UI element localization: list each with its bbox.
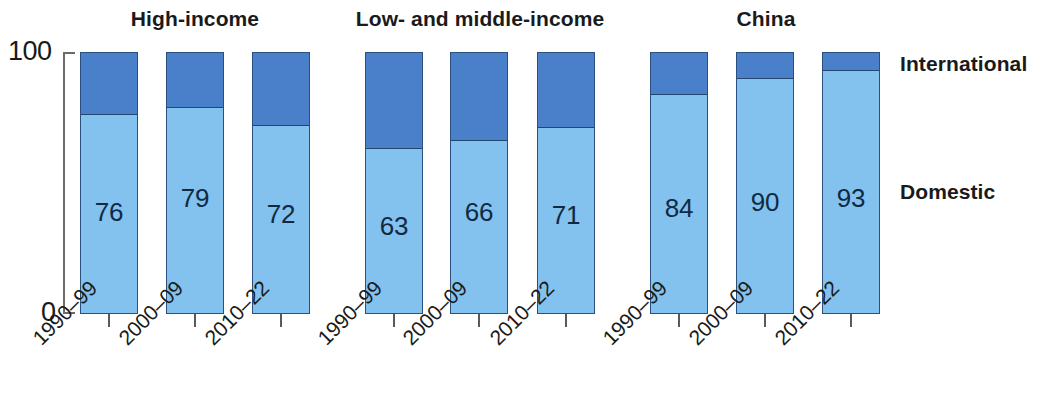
bar-value-label: 93 — [823, 183, 879, 214]
bar-value-label: 90 — [737, 187, 793, 218]
x-axis-tick — [108, 314, 110, 327]
stacked-bar-chart: High-income Low- and middle-income China… — [0, 0, 1051, 417]
bar-value-label: 84 — [651, 193, 707, 224]
bar-high-income-1990-99[interactable]: 76 — [80, 52, 138, 314]
x-axis-tick — [194, 314, 196, 327]
bar-value-label: 71 — [538, 200, 594, 231]
bar-high-income-2000-09[interactable]: 79 — [166, 52, 224, 314]
legend-item-domestic: Domestic — [900, 180, 995, 204]
bar-value-label: 79 — [167, 183, 223, 214]
x-axis-tick — [280, 314, 282, 327]
bar-segment-international — [451, 53, 507, 141]
x-axis-tick — [850, 314, 852, 327]
bar-segment-international — [81, 53, 137, 115]
bar-segment-international — [253, 53, 309, 126]
y-axis — [63, 52, 75, 314]
bar-value-label: 76 — [81, 197, 137, 228]
bar-segment-international — [366, 53, 422, 149]
x-axis-tick — [678, 314, 680, 327]
legend-item-international: International — [900, 52, 1027, 76]
bar-segment-international — [167, 53, 223, 108]
bar-low-and-middle-income-2010-22[interactable]: 71 — [537, 52, 595, 314]
group-title-china: China — [737, 7, 796, 31]
group-title-high-income: High-income — [131, 7, 259, 31]
bar-low-and-middle-income-2000-09[interactable]: 66 — [450, 52, 508, 314]
bar-segment-domestic: 90 — [737, 79, 793, 313]
x-axis-tick — [565, 314, 567, 327]
bar-segment-international — [651, 53, 707, 95]
bar-high-income-2010-22[interactable]: 72 — [252, 52, 310, 314]
bar-china-2000-09[interactable]: 90 — [736, 52, 794, 314]
group-title-low-and-middle-income: Low- and middle-income — [356, 7, 604, 31]
bar-low-and-middle-income-1990-99[interactable]: 63 — [365, 52, 423, 314]
bar-china-2010-22[interactable]: 93 — [822, 52, 880, 314]
bar-segment-international — [823, 53, 879, 71]
bar-segment-international — [538, 53, 594, 128]
y-axis-label-100: 100 — [8, 36, 52, 67]
bar-value-label: 63 — [366, 211, 422, 242]
bar-segment-international — [737, 53, 793, 79]
bar-china-1990-99[interactable]: 84 — [650, 52, 708, 314]
bar-value-label: 66 — [451, 197, 507, 228]
bar-segment-domestic: 93 — [823, 71, 879, 313]
bar-value-label: 72 — [253, 199, 309, 230]
x-axis-tick — [478, 314, 480, 327]
x-axis-tick — [764, 314, 766, 327]
x-axis-tick — [393, 314, 395, 327]
